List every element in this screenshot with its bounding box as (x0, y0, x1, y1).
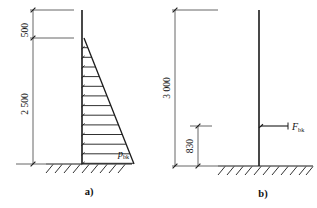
panel-a: 500 2 500 (16, 8, 134, 198)
caption-a: a) (85, 186, 94, 198)
panel-b-witness-lines (172, 10, 218, 166)
engineering-diagram: 500 2 500 (0, 0, 317, 208)
figure-canvas: 500 2 500 (0, 0, 317, 208)
panel-b: 3 000 830 Fbk (162, 8, 313, 200)
load-label-f: Fbk (291, 121, 305, 133)
caption-b: b) (258, 188, 268, 200)
dimension-label-2500: 2 500 (20, 93, 30, 115)
dimension-label-500: 500 (20, 23, 30, 38)
dimension-label-830: 830 (185, 139, 195, 154)
ground-hatch-b (218, 167, 313, 176)
load-arrows-a (83, 48, 133, 164)
dimension-label-3000: 3 000 (162, 77, 172, 99)
ground-hatch-a (46, 165, 125, 174)
